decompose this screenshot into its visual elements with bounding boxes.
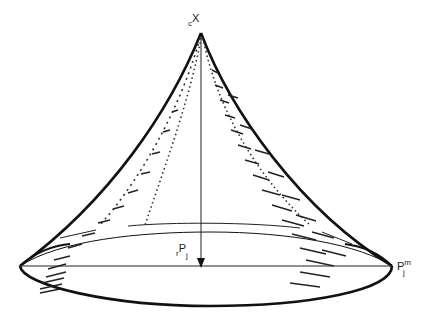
edge-point-label: Pmj (397, 258, 411, 277)
cusp-right-edge (201, 33, 392, 266)
apex-label: cX (188, 12, 200, 28)
right-dotted-ridge (203, 38, 310, 225)
base-ellipse-back (20, 232, 392, 266)
base-ellipse-front (20, 266, 392, 306)
right-hatching (212, 70, 346, 287)
cusp-surface-diagram: cX rPj Pmj (0, 0, 426, 322)
radius-label: rPj (176, 242, 188, 260)
cusp-left-edge (20, 33, 201, 266)
left-dotted-ridge (145, 38, 201, 225)
inner-level-arc (128, 223, 300, 228)
